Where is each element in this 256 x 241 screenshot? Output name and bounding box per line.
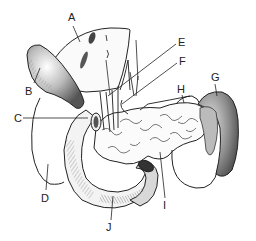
label-g: G [211,72,220,83]
label-f: F [179,56,186,67]
spleen [198,92,238,177]
label-e: E [178,37,185,48]
label-j: J [106,222,112,233]
label-h: H [177,84,185,95]
label-c: C [14,113,22,124]
label-i: I [163,200,166,211]
label-d: D [41,193,49,204]
organ-illustration [0,0,256,241]
mesenteric-loop [172,150,218,188]
anatomy-diagram: A B C D E F G H I J [0,0,256,241]
label-a: A [68,12,75,23]
pancreas [94,103,208,164]
label-b: B [25,86,32,97]
